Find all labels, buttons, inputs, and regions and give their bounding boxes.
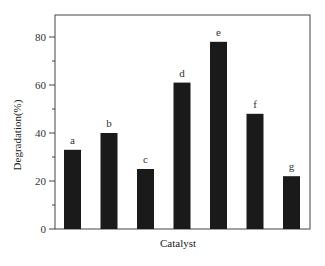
bar-label-c: c bbox=[143, 153, 148, 165]
bar-a bbox=[64, 150, 81, 229]
bar-d bbox=[174, 83, 191, 229]
bar-f bbox=[247, 114, 264, 229]
y-tick-label: 40 bbox=[35, 127, 47, 139]
bar-c bbox=[137, 169, 154, 229]
bar-label-e: e bbox=[216, 26, 221, 38]
y-tick-label: 20 bbox=[35, 175, 47, 187]
bar-label-b: b bbox=[106, 117, 112, 129]
bar-chart: 020406080 abcdefg Catalyst Degradation(%… bbox=[0, 0, 325, 266]
bars: abcdefg bbox=[64, 26, 300, 229]
bar-label-a: a bbox=[70, 134, 75, 146]
bar-label-d: d bbox=[179, 67, 185, 79]
bar-b bbox=[101, 133, 118, 229]
bar-e bbox=[210, 42, 227, 229]
y-axis-ticks: 020406080 bbox=[35, 31, 55, 235]
y-tick-label: 80 bbox=[35, 31, 47, 43]
bar-label-f: f bbox=[253, 98, 257, 110]
y-tick-label: 0 bbox=[41, 223, 47, 235]
bar-label-g: g bbox=[289, 160, 295, 172]
bar-g bbox=[283, 176, 300, 229]
y-axis-title: Degradation(%) bbox=[11, 99, 24, 170]
x-axis-title: Catalyst bbox=[160, 237, 196, 249]
y-tick-label: 60 bbox=[35, 79, 47, 91]
